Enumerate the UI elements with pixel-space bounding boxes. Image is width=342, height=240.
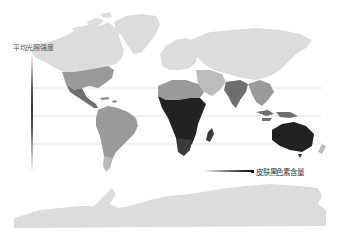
region-southern-africa — [176, 138, 192, 156]
region-caribbean — [100, 97, 117, 103]
region-southeast-asia — [248, 80, 274, 106]
region-new-zealand — [318, 144, 326, 154]
region-indonesia-png — [256, 110, 298, 121]
region-antarctica — [14, 184, 326, 228]
region-south-america — [96, 106, 138, 168]
region-tasmania — [298, 154, 302, 158]
melanin-legend: 皮肤黑色素含量 — [205, 165, 304, 177]
region-south-america-south — [103, 156, 112, 172]
world-map — [0, 0, 342, 240]
light-intensity-legend-label: 平均光照强度 — [13, 42, 53, 52]
melanin-gradient-bar — [205, 170, 251, 172]
region-india — [224, 80, 248, 108]
region-australia — [272, 122, 314, 152]
region-madagascar — [206, 128, 214, 142]
region-north-africa — [158, 80, 204, 100]
melanin-gradient-end-marker — [251, 170, 254, 173]
melanin-legend-label: 皮肤黑色素含量 — [256, 166, 304, 177]
light-intensity-gradient-bar — [31, 56, 33, 174]
